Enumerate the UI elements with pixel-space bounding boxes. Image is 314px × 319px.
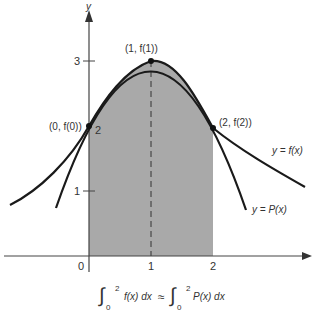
point-label-2: (2, f(2))	[219, 117, 252, 128]
integrand-left: f(x) dx	[124, 291, 153, 302]
y-tick-label-2: 2	[95, 124, 101, 136]
integral-diagram: y 3 2 1 0 1 2 (0, f(0)) (1, f(1)) (2, f(…	[0, 0, 314, 319]
upper-limit-right: 2	[186, 284, 191, 293]
approx-symbol: ≈	[158, 290, 165, 304]
point-label-1: (1, f(1))	[125, 43, 158, 54]
curve-label-f: y = f(x)	[271, 145, 303, 156]
integral-sign-left-icon: ∫	[98, 284, 106, 307]
integrand-right: P(x) dx	[193, 291, 226, 302]
lower-limit-right: 0	[177, 303, 182, 312]
integral-formula: ∫ 2 0 f(x) dx ≈ ∫ 2 0 P(x) dx	[98, 284, 226, 312]
x-tick-label-1: 1	[148, 260, 154, 272]
y-tick-label-1: 1	[74, 185, 80, 197]
y-tick-label-3: 3	[74, 55, 80, 67]
curve-label-p: y = P(x)	[251, 204, 287, 215]
integral-sign-right-icon: ∫	[169, 284, 177, 307]
y-axis-label: y	[85, 1, 92, 12]
point-0	[86, 123, 92, 129]
lower-limit-left: 0	[106, 303, 111, 312]
x-axis-arrow-icon	[302, 252, 312, 260]
x-tick-label-0: 0	[78, 260, 84, 272]
point-1	[148, 58, 154, 64]
upper-limit-left: 2	[115, 284, 120, 293]
point-2	[210, 125, 216, 131]
x-tick-label-2: 2	[210, 260, 216, 272]
point-label-0: (0, f(0))	[49, 121, 82, 132]
